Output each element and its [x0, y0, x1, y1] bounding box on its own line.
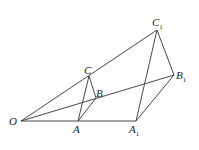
label-A1: A1 [129, 124, 139, 138]
diagram-lines [0, 0, 199, 150]
label-B1: B1 [176, 70, 186, 84]
label-A1-sub: 1 [136, 130, 140, 138]
label-C-text: C [84, 64, 91, 76]
label-A1-text: A [129, 123, 136, 135]
label-O: O [9, 116, 17, 127]
segment-C-B [89, 76, 96, 98]
label-B1-sub: 1 [183, 76, 187, 84]
label-A: A [73, 124, 80, 135]
label-C1-sub: 1 [159, 23, 163, 31]
label-O-text: O [9, 115, 17, 127]
label-A-text: A [73, 123, 80, 135]
label-C: C [84, 65, 91, 76]
label-B-text: B [96, 87, 103, 99]
label-B1-text: B [176, 69, 183, 81]
geometry-diagram: O A A1 B B1 C C1 [0, 0, 199, 150]
segment-C1-A1 [136, 30, 157, 121]
segment-C1-B1 [157, 30, 174, 75]
label-C1: C1 [152, 17, 163, 31]
label-B: B [96, 88, 103, 99]
